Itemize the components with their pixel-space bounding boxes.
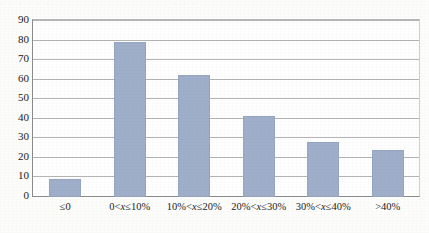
y-tick-label: 30 [3,131,29,142]
bar-series [33,20,420,197]
y-tick-label: 20 [3,151,29,162]
bar[interactable] [243,116,275,197]
y-tick-label: 90 [3,14,29,25]
bar-slot [291,20,356,197]
bar-slot [33,20,98,197]
bar-slot [227,20,292,197]
x-tick-label: 20%<x≤30% [227,201,292,225]
x-tick-label: ≤0 [33,201,98,225]
bar[interactable] [307,142,339,197]
bar-slot [98,20,163,197]
y-tick-label: 10 [3,170,29,181]
y-tick-label: 50 [3,92,29,103]
y-axis-labels: 9080706050403020100 [0,19,29,197]
y-tick-label: 0 [3,190,29,201]
x-tick-label: >40% [356,201,421,225]
x-tick-label: 10%<x≤20% [162,201,227,225]
x-tick-label: 0<x≤10% [98,201,163,225]
bar[interactable] [114,42,146,197]
bar-slot [356,20,421,197]
x-axis-labels: ≤00<x≤10%10%<x≤20%20%<x≤30%30%<x≤40%>40% [33,201,420,225]
bar-chart: 9080706050403020100 ≤00<x≤10%10%<x≤20%20… [0,0,429,233]
y-tick-label: 80 [3,34,29,45]
bar-slot [162,20,227,197]
x-tick-label: 30%<x≤40% [291,201,356,225]
bar[interactable] [178,75,210,197]
y-tick-label: 40 [3,112,29,123]
bar[interactable] [49,179,81,197]
y-tick-label: 60 [3,73,29,84]
y-tick-label: 70 [3,53,29,64]
bar[interactable] [372,150,404,197]
